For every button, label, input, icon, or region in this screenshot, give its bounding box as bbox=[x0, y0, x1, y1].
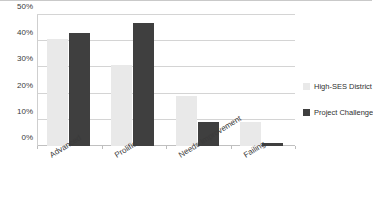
x-axis-tick-mark bbox=[37, 146, 38, 149]
legend-item-label: Project Challenge bbox=[314, 108, 373, 117]
x-axis-tick-mark bbox=[231, 146, 232, 149]
legend-item-project-challenge[interactable]: Project Challenge bbox=[303, 107, 372, 117]
bar[interactable] bbox=[111, 65, 132, 146]
x-axis-tick-mark bbox=[295, 146, 296, 149]
y-axis-tick-label: 40% bbox=[1, 29, 33, 37]
bar[interactable] bbox=[176, 96, 197, 146]
x-axis-tick-mark bbox=[166, 146, 167, 149]
chart-legend: High-SES District Project Challenge bbox=[303, 81, 372, 133]
y-axis-tick-label: 30% bbox=[1, 55, 33, 63]
y-axis-tick-label: 50% bbox=[1, 3, 33, 11]
legend-swatch-icon bbox=[303, 109, 310, 116]
bar[interactable] bbox=[47, 39, 68, 146]
y-axis-tick-labels: 0%10%20%30%40%50% bbox=[0, 15, 33, 146]
bar-group bbox=[37, 15, 102, 146]
bar-group bbox=[231, 15, 296, 146]
y-axis-tick-label: 0% bbox=[1, 134, 33, 142]
legend-item-label: High-SES District bbox=[314, 82, 372, 91]
bar-group bbox=[102, 15, 167, 146]
y-axis-line bbox=[37, 15, 38, 146]
y-axis-tick-label: 20% bbox=[1, 82, 33, 90]
bar[interactable] bbox=[133, 23, 154, 146]
bar[interactable] bbox=[69, 33, 90, 146]
legend-swatch-icon bbox=[303, 83, 310, 90]
legend-item-high-ses-district[interactable]: High-SES District bbox=[303, 81, 372, 91]
plot-area bbox=[37, 15, 295, 146]
x-axis-tick-mark bbox=[102, 146, 103, 149]
y-axis-tick-label: 10% bbox=[1, 108, 33, 116]
